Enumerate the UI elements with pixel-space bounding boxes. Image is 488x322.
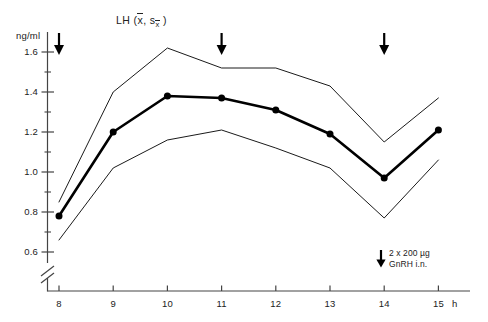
data-series-group bbox=[59, 48, 438, 240]
x-tick-label: 14 bbox=[370, 298, 398, 309]
data-point-marker bbox=[164, 93, 171, 100]
chart-title-se-subscript: x bbox=[155, 20, 159, 29]
legend-down-arrow-icon bbox=[376, 250, 385, 268]
chart-title-close-paren: ) bbox=[163, 14, 167, 26]
data-point-marker bbox=[381, 175, 388, 182]
dose-arrow-1 bbox=[54, 33, 64, 55]
chart-plot-area bbox=[0, 0, 488, 322]
x-tick-label: 12 bbox=[262, 298, 290, 309]
data-point-marker bbox=[56, 213, 63, 220]
y-axis-unit-label: ng/ml bbox=[16, 30, 40, 41]
dose-arrow-3 bbox=[379, 33, 389, 55]
data-point-marker bbox=[110, 129, 117, 136]
data-point-marker bbox=[218, 95, 225, 102]
y-tick-label: 1.0 bbox=[10, 166, 38, 177]
y-tick-label: 0.8 bbox=[10, 206, 38, 217]
y-tick-label: 0.6 bbox=[10, 246, 38, 257]
data-point-marker bbox=[435, 127, 442, 134]
y-tick-label: 1.6 bbox=[10, 46, 38, 57]
data-point-marker bbox=[272, 107, 279, 114]
x-tick-label: 15 bbox=[424, 298, 452, 309]
y-tick-label: 1.4 bbox=[10, 86, 38, 97]
y-tick-label: 1.2 bbox=[10, 126, 38, 137]
series-line-lower bbox=[59, 130, 438, 240]
x-tick-label: 10 bbox=[153, 298, 181, 309]
lh-line-chart-figure: LH (x, sx ) ng/ml 1.61.41.21.00.80.6 891… bbox=[0, 0, 488, 322]
x-axis-ticks bbox=[59, 286, 438, 292]
chart-title-mean-symbol: x bbox=[137, 14, 143, 26]
dose-arrow-2 bbox=[217, 33, 227, 55]
chart-title-analyte: LH bbox=[116, 14, 130, 26]
legend-dose-line: 2 x 200 µg bbox=[389, 248, 430, 258]
legend-drug-line: GnRH i.n. bbox=[389, 259, 427, 269]
x-tick-label: 13 bbox=[316, 298, 344, 309]
chart-title-separator: , bbox=[143, 14, 146, 26]
series-line-mean bbox=[59, 96, 438, 216]
x-axis-unit-label: h bbox=[452, 298, 457, 309]
data-point-markers bbox=[56, 93, 442, 220]
x-tick-label: 9 bbox=[99, 298, 127, 309]
chart-title: LH (x, sx ) bbox=[116, 14, 167, 29]
dose-arrows-group bbox=[54, 33, 389, 55]
x-tick-label: 11 bbox=[208, 298, 236, 309]
x-tick-label: 8 bbox=[45, 298, 73, 309]
data-point-marker bbox=[327, 131, 334, 138]
